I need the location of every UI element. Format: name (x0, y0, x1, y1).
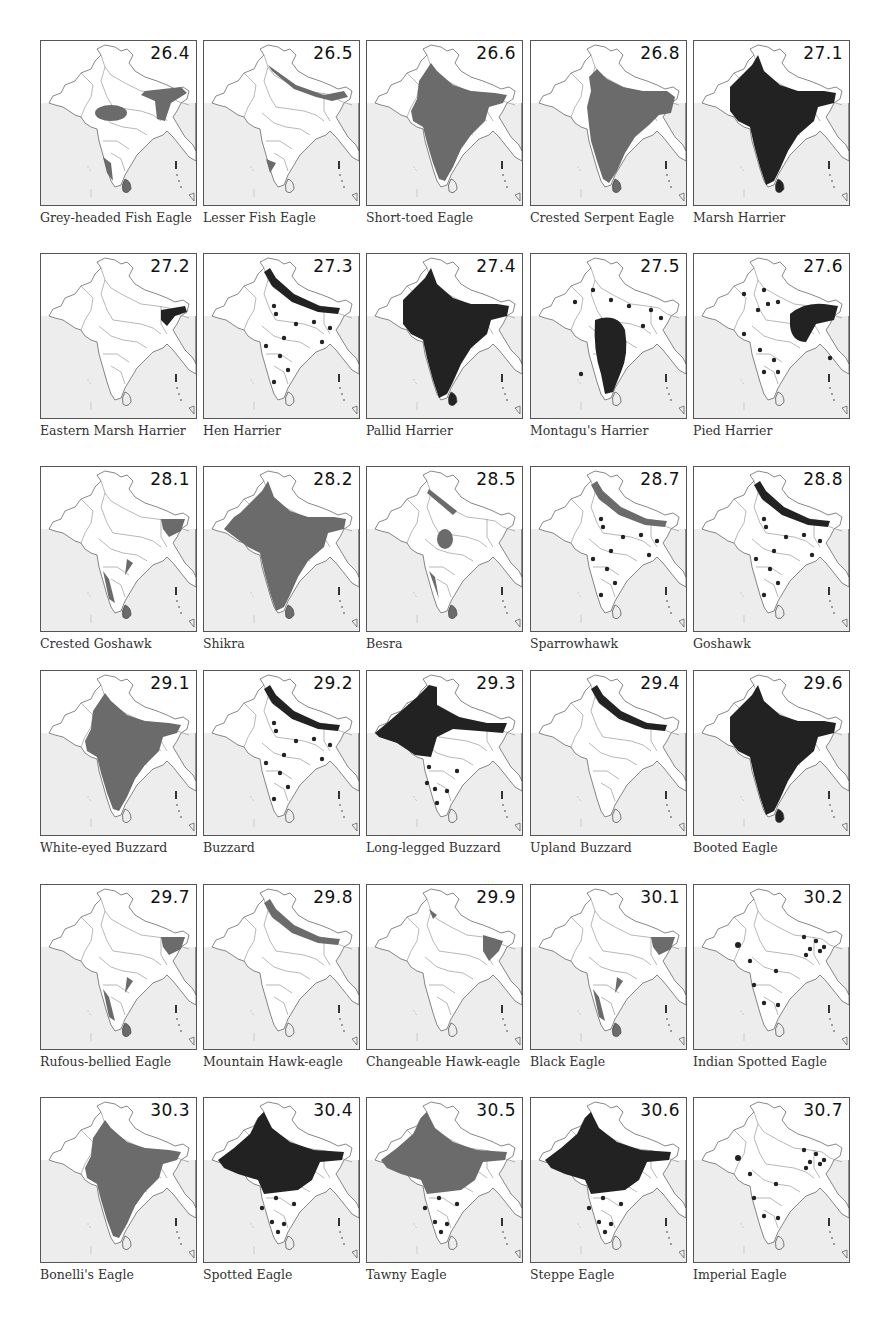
map-number: 27.3 (313, 256, 353, 276)
india-range-map-icon (694, 254, 849, 418)
map-number: 29.4 (640, 673, 680, 693)
india-range-map-icon (41, 467, 196, 631)
india-range-map-icon (204, 254, 359, 418)
map-number: 29.3 (476, 673, 516, 693)
india-range-map-icon (204, 671, 359, 835)
india-range-map-icon (694, 41, 849, 205)
india-range-map-icon (41, 1098, 196, 1262)
india-range-map-icon (204, 41, 359, 205)
species-caption: Shikra (203, 636, 245, 651)
range-map-panel: 26.4 (40, 40, 197, 206)
india-range-map-icon (367, 885, 522, 1049)
range-map-panel: 27.2 (40, 253, 197, 419)
range-map-panel: 29.9 (366, 884, 523, 1050)
species-caption: Imperial Eagle (693, 1267, 787, 1282)
species-caption: Short-toed Eagle (366, 210, 473, 225)
species-caption: Indian Spotted Eagle (693, 1054, 827, 1069)
map-number: 27.6 (803, 256, 843, 276)
range-map-panel: 27.4 (366, 253, 523, 419)
range-map-panel: 26.8 (530, 40, 687, 206)
species-caption: Montagu's Harrier (530, 423, 648, 438)
map-number: 30.6 (640, 1100, 680, 1120)
india-range-map-icon (367, 1098, 522, 1262)
range-map-panel: 30.1 (530, 884, 687, 1050)
map-number: 26.5 (313, 43, 353, 63)
map-number: 30.2 (803, 887, 843, 907)
range-map-panel: 27.1 (693, 40, 850, 206)
species-caption: Buzzard (203, 840, 255, 855)
india-range-map-icon (204, 885, 359, 1049)
india-range-map-icon (531, 671, 686, 835)
species-caption: Marsh Harrier (693, 210, 785, 225)
range-map-panel: 29.2 (203, 670, 360, 836)
map-number: 30.3 (150, 1100, 190, 1120)
india-range-map-icon (367, 41, 522, 205)
species-caption: Crested Serpent Eagle (530, 210, 674, 225)
species-caption: Rufous-bellied Eagle (40, 1054, 171, 1069)
species-caption: Sparrowhawk (530, 636, 618, 651)
species-caption: Hen Harrier (203, 423, 281, 438)
map-number: 30.4 (313, 1100, 353, 1120)
range-map-panel: 30.2 (693, 884, 850, 1050)
india-range-map-icon (204, 467, 359, 631)
species-caption: Tawny Eagle (366, 1267, 447, 1282)
map-number: 26.6 (476, 43, 516, 63)
species-caption: Long-legged Buzzard (366, 840, 501, 855)
map-number: 28.1 (150, 469, 190, 489)
map-number: 30.1 (640, 887, 680, 907)
india-range-map-icon (531, 254, 686, 418)
range-map-panel: 30.6 (530, 1097, 687, 1263)
map-number: 26.4 (150, 43, 190, 63)
species-caption: Goshawk (693, 636, 751, 651)
map-number: 27.5 (640, 256, 680, 276)
map-number: 29.6 (803, 673, 843, 693)
map-number: 28.5 (476, 469, 516, 489)
species-caption: Eastern Marsh Harrier (40, 423, 186, 438)
map-number: 30.7 (803, 1100, 843, 1120)
india-range-map-icon (367, 254, 522, 418)
india-range-map-icon (531, 1098, 686, 1262)
map-number: 30.5 (476, 1100, 516, 1120)
range-map-panel: 30.5 (366, 1097, 523, 1263)
map-number: 29.2 (313, 673, 353, 693)
species-caption: Crested Goshawk (40, 636, 151, 651)
range-map-panel: 27.6 (693, 253, 850, 419)
range-map-panel: 28.2 (203, 466, 360, 632)
species-caption: Upland Buzzard (530, 840, 632, 855)
india-range-map-icon (367, 671, 522, 835)
range-map-panel: 29.8 (203, 884, 360, 1050)
range-map-panel: 30.4 (203, 1097, 360, 1263)
species-caption: Pied Harrier (693, 423, 772, 438)
map-number: 27.4 (476, 256, 516, 276)
range-map-panel: 27.5 (530, 253, 687, 419)
range-map-panel: 28.7 (530, 466, 687, 632)
range-map-panel: 26.5 (203, 40, 360, 206)
range-map-panel: 29.3 (366, 670, 523, 836)
species-caption: Mountain Hawk-eagle (203, 1054, 343, 1069)
india-range-map-icon (41, 254, 196, 418)
range-map-panel: 26.6 (366, 40, 523, 206)
map-number: 27.1 (803, 43, 843, 63)
species-caption: White-eyed Buzzard (40, 840, 167, 855)
range-map-panel: 27.3 (203, 253, 360, 419)
map-number: 28.7 (640, 469, 680, 489)
species-caption: Pallid Harrier (366, 423, 453, 438)
range-map-panel: 29.4 (530, 670, 687, 836)
india-range-map-icon (367, 467, 522, 631)
map-number: 29.7 (150, 887, 190, 907)
range-map-panel: 28.8 (693, 466, 850, 632)
species-caption: Changeable Hawk-eagle (366, 1054, 520, 1069)
species-caption: Steppe Eagle (530, 1267, 614, 1282)
map-number: 28.8 (803, 469, 843, 489)
india-range-map-icon (531, 467, 686, 631)
india-range-map-icon (41, 885, 196, 1049)
species-caption: Booted Eagle (693, 840, 778, 855)
india-range-map-icon (204, 1098, 359, 1262)
india-range-map-icon (694, 467, 849, 631)
species-caption: Grey-headed Fish Eagle (40, 210, 192, 225)
map-number: 27.2 (150, 256, 190, 276)
range-map-panel: 29.7 (40, 884, 197, 1050)
range-map-panel: 29.6 (693, 670, 850, 836)
india-range-map-icon (694, 1098, 849, 1262)
map-number: 28.2 (313, 469, 353, 489)
